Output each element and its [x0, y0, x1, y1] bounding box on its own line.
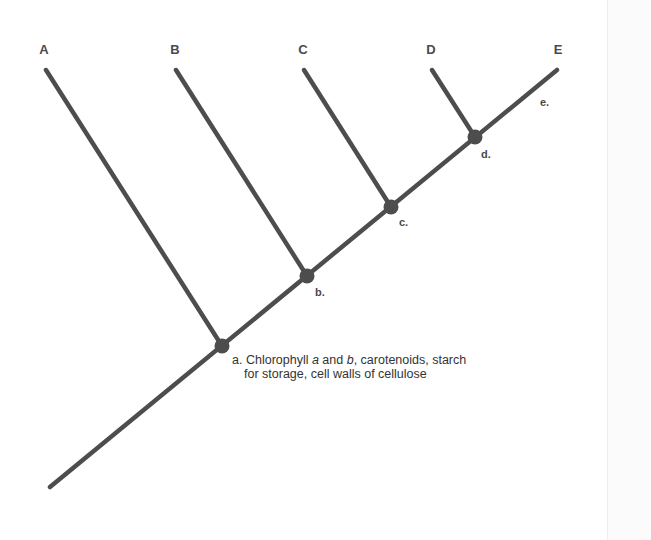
node-label-c: c.: [399, 216, 408, 228]
taxon-label-c: C: [298, 42, 307, 57]
branch-label-e: e.: [540, 96, 549, 108]
node-a-annotation: a. Chlorophyll a and b, carotenoids, sta…: [232, 353, 472, 381]
taxon-label-e: E: [554, 42, 563, 57]
node-d: [468, 130, 483, 145]
annotation-italic-b: b: [347, 353, 354, 367]
node-label-b: b.: [315, 286, 325, 298]
annotation-italic-a: a: [312, 353, 319, 367]
annotation-text-2: and: [319, 353, 347, 367]
branch-a: [46, 70, 222, 346]
branch-b: [176, 70, 307, 276]
branch-c: [304, 70, 391, 207]
node-b: [300, 269, 315, 284]
annotation-marker: a.: [232, 353, 242, 367]
branch-d: [432, 70, 475, 137]
taxon-label-d: D: [426, 42, 435, 57]
taxon-label-a: A: [39, 42, 48, 57]
node-c: [384, 200, 399, 215]
node-a: [215, 339, 230, 354]
annotation-text-1: Chlorophyll: [246, 353, 312, 367]
node-label-d: d.: [481, 148, 491, 160]
taxon-label-b: B: [170, 42, 179, 57]
